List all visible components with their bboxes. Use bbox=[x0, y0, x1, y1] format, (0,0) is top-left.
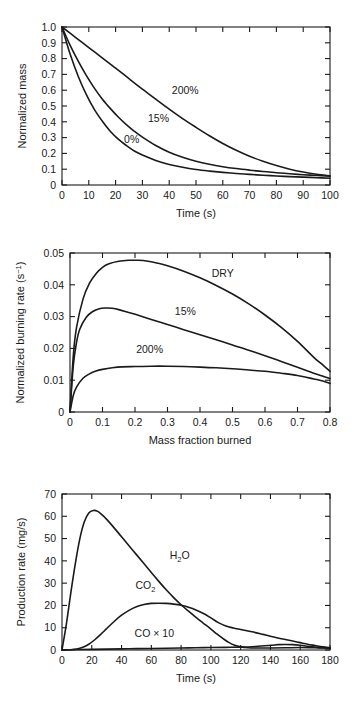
y-tick-label: 0.7 bbox=[41, 68, 56, 80]
x-tick-label: 40 bbox=[163, 189, 175, 201]
curve-label: 200% bbox=[172, 84, 199, 96]
x-tick-label: 140 bbox=[262, 654, 280, 666]
data-curve bbox=[62, 27, 330, 176]
x-tick-label: 20 bbox=[86, 654, 98, 666]
three-panel-figure: 010203040506070809010000.10.20.30.40.50.… bbox=[0, 0, 355, 718]
y-tick-label: 40 bbox=[44, 555, 56, 567]
y-tick-label: 0.01 bbox=[44, 374, 65, 386]
plot-frame bbox=[62, 494, 330, 650]
y-tick-label: 0.2 bbox=[41, 147, 56, 159]
y-tick-label: 0.3 bbox=[41, 131, 56, 143]
y-tick-label: 0.02 bbox=[44, 342, 65, 354]
x-axis-title: Time (s) bbox=[176, 207, 216, 219]
curve-label: CO × 10 bbox=[135, 627, 175, 639]
y-tick-label: 0.05 bbox=[44, 247, 65, 259]
panel-c-svg: 020406080100120140160180010203040506070H… bbox=[0, 470, 355, 718]
y-tick-label: 0 bbox=[58, 406, 64, 418]
x-tick-label: 0 bbox=[59, 189, 65, 201]
x-axis-title: Mass fraction burned bbox=[149, 434, 252, 446]
curve-label: 15% bbox=[148, 112, 169, 124]
x-tick-label: 90 bbox=[297, 189, 309, 201]
panel-normalized-burning-rate: 00.10.20.30.40.50.60.70.800.010.020.030.… bbox=[0, 235, 355, 470]
x-tick-label: 0.2 bbox=[128, 416, 143, 428]
y-tick-label: 0.6 bbox=[41, 84, 56, 96]
y-axis-title: Production rate (mg/s) bbox=[15, 518, 27, 627]
y-tick-label: 0.4 bbox=[41, 116, 56, 128]
y-tick-label: 0 bbox=[50, 179, 56, 191]
data-curve bbox=[70, 308, 330, 412]
data-curve bbox=[62, 510, 330, 650]
panel-a-svg: 010203040506070809010000.10.20.30.40.50.… bbox=[0, 0, 355, 235]
y-tick-label: 0.03 bbox=[44, 310, 65, 322]
curve-label: CO2 bbox=[135, 579, 155, 594]
panel-normalized-mass: 010203040506070809010000.10.20.30.40.50.… bbox=[0, 0, 355, 235]
x-tick-label: 0.4 bbox=[193, 416, 208, 428]
y-tick-label: 70 bbox=[44, 488, 56, 500]
x-tick-label: 60 bbox=[145, 654, 157, 666]
x-tick-label: 50 bbox=[190, 189, 202, 201]
data-curve bbox=[70, 366, 330, 412]
y-tick-label: 50 bbox=[44, 532, 56, 544]
x-tick-label: 0 bbox=[59, 654, 65, 666]
x-tick-label: 180 bbox=[321, 654, 339, 666]
y-tick-label: 0.5 bbox=[41, 100, 56, 112]
data-curve bbox=[62, 27, 330, 178]
x-tick-label: 120 bbox=[232, 654, 250, 666]
y-tick-label: 0.04 bbox=[44, 279, 65, 291]
x-tick-label: 40 bbox=[116, 654, 128, 666]
data-curve bbox=[62, 27, 330, 176]
x-tick-label: 0.1 bbox=[95, 416, 110, 428]
x-tick-label: 80 bbox=[175, 654, 187, 666]
x-tick-label: 100 bbox=[202, 654, 220, 666]
panel-production-rate: 020406080100120140160180010203040506070H… bbox=[0, 470, 355, 718]
y-tick-label: 60 bbox=[44, 510, 56, 522]
x-tick-label: 0.6 bbox=[258, 416, 273, 428]
x-tick-label: 60 bbox=[217, 189, 229, 201]
y-axis-title: Normalized mass bbox=[16, 63, 28, 148]
x-tick-label: 100 bbox=[321, 189, 339, 201]
x-tick-label: 160 bbox=[291, 654, 309, 666]
y-tick-label: 0.1 bbox=[41, 163, 56, 175]
y-tick-label: 1.0 bbox=[41, 21, 56, 33]
curve-label: 0% bbox=[124, 133, 139, 145]
x-tick-label: 30 bbox=[137, 189, 149, 201]
x-tick-label: 0 bbox=[67, 416, 73, 428]
curve-label: H2O bbox=[170, 549, 190, 564]
x-tick-label: 0.5 bbox=[225, 416, 240, 428]
curve-label: 200% bbox=[136, 343, 163, 355]
x-tick-label: 70 bbox=[244, 189, 256, 201]
y-tick-label: 0.8 bbox=[41, 52, 56, 64]
y-tick-label: 0 bbox=[50, 644, 56, 656]
x-tick-label: 0.3 bbox=[160, 416, 175, 428]
panel-b-svg: 00.10.20.30.40.50.60.70.800.010.020.030.… bbox=[0, 235, 355, 470]
y-axis-title: Normalized burning rate (s−1) bbox=[14, 262, 27, 404]
curve-label: DRY bbox=[212, 267, 234, 279]
curve-label: 15% bbox=[175, 305, 196, 317]
x-tick-label: 80 bbox=[271, 189, 283, 201]
x-tick-label: 10 bbox=[83, 189, 95, 201]
y-tick-label: 20 bbox=[44, 599, 56, 611]
x-axis-title: Time (s) bbox=[176, 672, 216, 684]
x-tick-label: 0.8 bbox=[323, 416, 338, 428]
x-tick-label: 0.7 bbox=[290, 416, 305, 428]
y-tick-label: 10 bbox=[44, 621, 56, 633]
data-curve bbox=[62, 603, 330, 650]
data-curve bbox=[70, 260, 330, 412]
y-tick-label: 0.9 bbox=[41, 37, 56, 49]
y-tick-label: 30 bbox=[44, 577, 56, 589]
x-tick-label: 20 bbox=[110, 189, 122, 201]
plot-frame bbox=[70, 253, 330, 412]
